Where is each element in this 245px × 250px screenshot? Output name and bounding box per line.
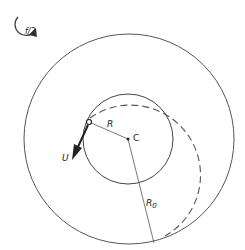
center-label: C (133, 133, 139, 143)
outer-radius-label: R0 (146, 198, 157, 210)
radius-label: R (107, 119, 113, 129)
velocity-arrowhead-icon (72, 144, 82, 160)
particle-marker (87, 120, 92, 125)
center-point (127, 138, 130, 141)
velocity-label: U (62, 153, 69, 163)
outer-radius-label-subscript: 0 (152, 202, 157, 210)
diagram-canvas: f/2 R C U R0 (0, 0, 245, 250)
rotation-label: f/2 (25, 27, 36, 36)
outer-radius-line (128, 139, 154, 243)
rotation-indicator: f/2 (15, 17, 37, 37)
